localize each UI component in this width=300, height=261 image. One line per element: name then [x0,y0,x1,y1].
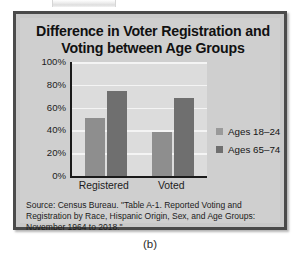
x-axis: RegisteredVoted [70,180,207,196]
bar-series-group [72,62,207,176]
bar [107,91,127,177]
legend-swatch-icon [216,146,223,153]
source-note-line-2: Registration by Race, Hispanic Origin, S… [26,211,284,222]
x-axis-tick-label: Voted [138,180,206,191]
y-axis-tick-label: 0% [52,171,66,181]
figure-frame: Difference in Voter Registration and Vot… [13,11,287,230]
bar [174,98,194,176]
bar [85,118,105,176]
legend-item: Ages 65–74 [216,142,298,157]
scan-edge-artifact [52,0,116,7]
chart-title: Difference in Voter Registration and Vot… [28,23,278,56]
y-axis: 100%80%60%40%20%0% [26,62,66,180]
legend-label: Ages 65–74 [228,144,280,155]
y-axis-tick-label: 100% [41,57,66,67]
x-axis-tick-label: Registered [70,180,138,191]
legend-swatch-icon [216,128,223,135]
y-axis-tick-label: 40% [47,125,66,135]
legend-label: Ages 18–24 [228,126,280,137]
legend-item: Ages 18–24 [216,124,298,139]
bar [152,132,172,176]
chart-title-line-2: Voting between Age Groups [28,40,278,57]
figure-caption: (b) [0,238,300,250]
plot-area [70,62,207,178]
source-note-line-3: November 1964 to 2018." [26,222,284,233]
chart-legend: Ages 18–24Ages 65–74 [216,124,298,160]
y-axis-tick-label: 80% [47,80,66,90]
y-axis-tick-label: 20% [47,148,66,158]
y-axis-tick-label: 60% [47,103,66,113]
source-note-line-1: Source: Census Bureau. "Table A-1. Repor… [26,200,284,211]
source-note: Source: Census Bureau. "Table A-1. Repor… [26,200,284,234]
chart-title-line-1: Difference in Voter Registration and [28,23,278,40]
figure-panel: Difference in Voter Registration and Vot… [20,18,280,223]
